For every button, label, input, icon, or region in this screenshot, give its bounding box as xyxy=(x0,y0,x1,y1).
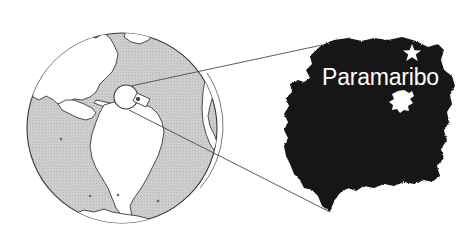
locator-circle-outline[interactable] xyxy=(114,85,138,109)
island-speck xyxy=(60,138,62,140)
suriname-silhouette[interactable]: Paramaribo xyxy=(284,37,455,212)
locator-point-dot xyxy=(136,97,140,101)
map-canvas: Paramaribo xyxy=(0,0,475,251)
island-speck xyxy=(157,200,159,202)
island-speck xyxy=(117,194,119,196)
locator-map-figure: Paramaribo xyxy=(0,0,475,251)
capital-label: Paramaribo xyxy=(322,64,439,90)
island-speck xyxy=(89,195,91,197)
landmass-europe xyxy=(190,41,208,56)
world-globe-inset xyxy=(27,27,223,233)
